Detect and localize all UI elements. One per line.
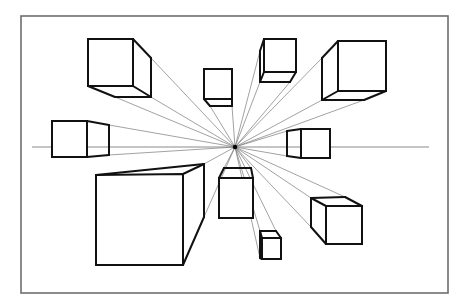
vanishing-point — [233, 145, 237, 149]
box-front-face — [96, 174, 183, 265]
box-front-face — [338, 41, 386, 91]
box-front-face — [204, 69, 232, 99]
box-edge — [260, 258, 262, 259]
box-front-face — [262, 238, 281, 259]
box-front-face — [52, 121, 87, 157]
perspective-drawing — [0, 0, 469, 303]
box-edge — [311, 197, 345, 198]
box-front-face — [88, 39, 133, 86]
box-front-face — [326, 206, 362, 244]
drawing-svg — [0, 0, 469, 303]
box-front-face — [219, 178, 253, 218]
box-front-face — [301, 129, 330, 158]
box-front-face — [264, 39, 296, 72]
